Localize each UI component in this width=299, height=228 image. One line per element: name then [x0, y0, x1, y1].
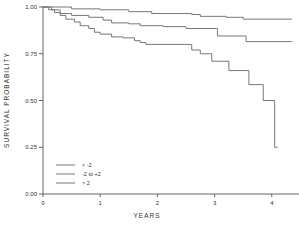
- y-axis-label: SURVIVAL PROBABILITY: [3, 52, 10, 148]
- legend-label-3: > 2: [82, 180, 90, 186]
- legend: < -2 -2 to +2 > 2: [56, 162, 101, 186]
- y-tick-label: 0.50: [25, 98, 37, 104]
- y-tick-label: 0.00: [25, 191, 37, 197]
- survival-chart: 0.000.250.500.751.00 01234 SURVIVAL PROB…: [0, 0, 299, 228]
- x-tick-label: 4: [270, 200, 274, 206]
- legend-label-2: -2 to +2: [82, 171, 101, 177]
- x-tick-label: 0: [41, 200, 45, 206]
- survival-curve-3: [43, 7, 278, 147]
- x-tick-label: 2: [156, 200, 160, 206]
- x-ticks: 01234: [41, 194, 274, 206]
- legend-label-1: < -2: [82, 162, 92, 168]
- survival-curves: [43, 7, 292, 147]
- x-tick-label: 1: [99, 200, 103, 206]
- x-tick-label: 3: [213, 200, 217, 206]
- survival-curve-1: [43, 7, 292, 19]
- y-tick-label: 0.75: [25, 51, 37, 57]
- y-tick-label: 0.25: [25, 144, 37, 150]
- x-axis-label: YEARS: [133, 212, 160, 219]
- y-ticks: 0.000.250.500.751.00: [25, 4, 43, 197]
- y-tick-label: 1.00: [25, 4, 37, 10]
